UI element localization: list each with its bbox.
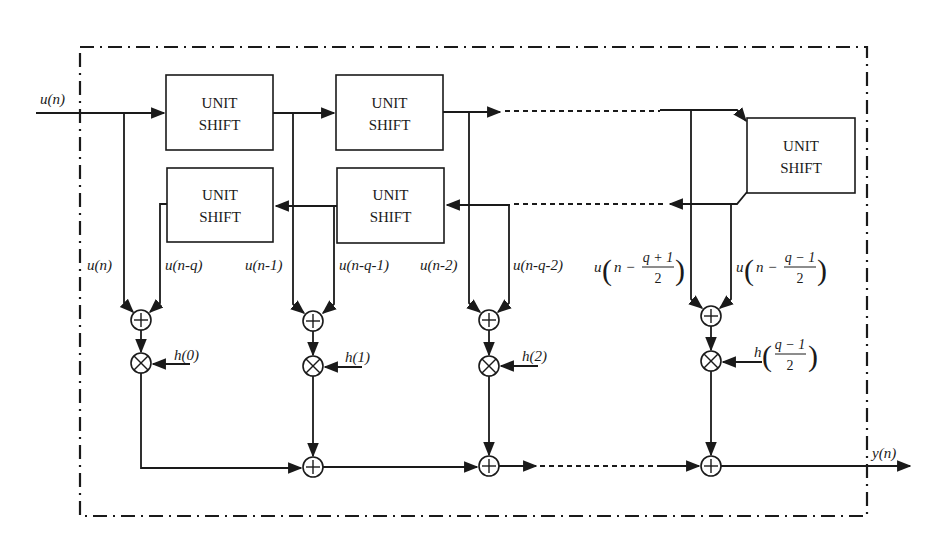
tap1-left-label: u(n-1) (245, 257, 283, 274)
multiplier-icon (479, 356, 499, 376)
svg-text:n −: n − (614, 259, 635, 275)
accumulator-adder-icon (303, 457, 323, 477)
output-label: y(n) (870, 445, 896, 462)
tap2-left-line (469, 112, 480, 312)
adder-icon (303, 311, 323, 331)
unit-shift-box-bottom-2: UNIT SHIFT (337, 168, 444, 243)
svg-text:q − 1: q − 1 (785, 250, 815, 265)
svg-text:q − 1: q − 1 (775, 337, 805, 352)
svg-text:UNIT: UNIT (372, 95, 408, 111)
svg-text:u: u (736, 259, 744, 275)
svg-text:UNIT: UNIT (783, 138, 819, 154)
coef2-label: h(2) (522, 348, 547, 365)
coef1-label: h(1) (345, 349, 370, 366)
tap2-left-label: u(n-2) (420, 257, 458, 274)
return-line-from-turn (670, 192, 747, 204)
adder-icon (479, 310, 499, 330)
tap2-right-label: u(n-q-2) (513, 257, 563, 274)
svg-text:2: 2 (797, 271, 804, 286)
tap1-right-label: u(n-q-1) (339, 257, 389, 274)
svg-text:q + 1: q + 1 (643, 250, 673, 265)
svg-text:n −: n − (756, 259, 777, 275)
unit-shift-box-top-1: UNIT SHIFT (166, 75, 273, 150)
multiplier-icon (303, 356, 323, 376)
tapN-right-line (720, 204, 731, 308)
svg-text:(: ( (762, 339, 772, 373)
svg-text:): ) (817, 253, 827, 287)
input-label: u(n) (40, 91, 65, 108)
svg-text:UNIT: UNIT (373, 187, 409, 203)
svg-text:u: u (594, 259, 602, 275)
svg-text:2: 2 (655, 271, 662, 286)
svg-text:SHIFT: SHIFT (199, 117, 241, 133)
tap1-right-line (323, 206, 337, 313)
svg-text:SHIFT: SHIFT (780, 160, 822, 176)
multiplier-icon (131, 353, 151, 373)
coef0-label: h(0) (174, 347, 199, 364)
accumulator-adder-icon (701, 456, 721, 476)
tap0-product-line (141, 373, 301, 468)
svg-text:): ) (808, 339, 818, 373)
svg-text:SHIFT: SHIFT (199, 209, 241, 225)
coefN-label: h ( q − 1 2 ) (754, 337, 818, 373)
svg-text:(: ( (744, 253, 754, 287)
svg-text:): ) (675, 253, 685, 287)
tapN-left-label: u ( n − q + 1 2 ) (594, 250, 685, 287)
tap0-left-label: u(n) (87, 257, 112, 274)
unit-shift-box-turn: UNIT SHIFT (747, 118, 855, 193)
adder-icon (701, 306, 721, 326)
svg-text:2: 2 (787, 358, 794, 373)
tap0-left-line (124, 113, 133, 312)
svg-text:UNIT: UNIT (202, 95, 238, 111)
unit-shift-box-top-2: UNIT SHIFT (336, 75, 443, 150)
forward-line-to-turn (660, 110, 746, 121)
tap0-right-label: u(n-q) (165, 257, 203, 274)
svg-text:(: ( (602, 253, 612, 287)
adder-icon (131, 310, 151, 330)
tap1-left-line (293, 113, 304, 313)
fir-filter-diagram: UNIT SHIFT UNIT SHIFT UNIT SHIFT UNIT SH… (0, 0, 946, 541)
tapN-right-label: u ( n − q − 1 2 ) (736, 250, 827, 287)
multiplier-icon (701, 351, 721, 371)
svg-text:UNIT: UNIT (202, 187, 238, 203)
tap2-right-line (498, 205, 510, 312)
svg-text:h: h (754, 344, 762, 360)
unit-shift-box-bottom-1: UNIT SHIFT (167, 168, 273, 242)
svg-text:SHIFT: SHIFT (369, 117, 411, 133)
accumulator-adder-icon (479, 456, 499, 476)
tapN-left-line (691, 110, 702, 308)
svg-text:SHIFT: SHIFT (370, 209, 412, 225)
